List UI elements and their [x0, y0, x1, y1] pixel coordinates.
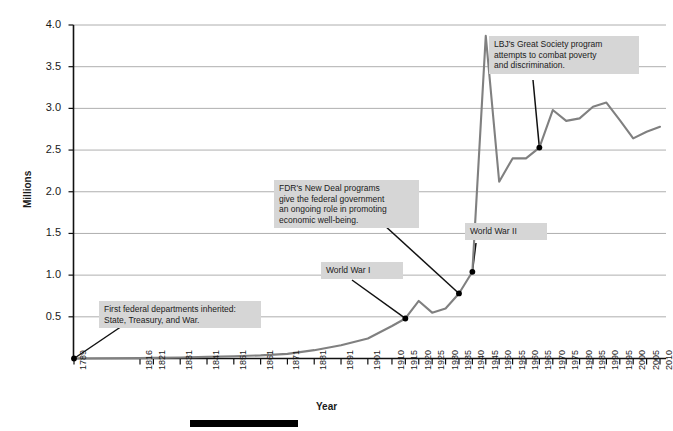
chart-container: Millions 0.51.01.52.02.53.03.54.0 178918… — [0, 0, 673, 431]
x-tick-label: 1910 — [396, 350, 406, 370]
x-tick-label: 1930 — [450, 350, 460, 370]
x-tick-label: 1841 — [211, 350, 221, 370]
x-tick-label: 1891 — [345, 350, 355, 370]
x-tick-label: 1970 — [557, 350, 567, 370]
y-tick-label: 3.5 — [27, 60, 61, 72]
footer-black-bar — [190, 420, 298, 427]
x-tick-label: 1965 — [543, 350, 553, 370]
x-tick-label: 1871 — [291, 350, 301, 370]
x-tick-label: 1831 — [184, 350, 194, 370]
annotation-lbj-great-society: LBJ's Great Society program attempts to … — [489, 36, 639, 74]
annotation-first-federal-departments: First federal departments inherited: Sta… — [99, 301, 261, 328]
x-tick-label: 1980 — [584, 350, 594, 370]
y-tick-label: 0.5 — [27, 310, 61, 322]
x-tick-label: 1935 — [463, 350, 473, 370]
x-tick-label: 2000 — [637, 350, 647, 370]
x-tick-label: 1816 — [144, 350, 154, 370]
x-tick-label: 1851 — [238, 350, 248, 370]
x-tick-label: 1920 — [423, 350, 433, 370]
x-axis-title: Year — [316, 401, 337, 412]
x-tick-label: 1821 — [157, 350, 167, 370]
x-tick-label: 1925 — [436, 350, 446, 370]
x-tick-label: 1960 — [530, 350, 540, 370]
x-tick-label: 1861 — [265, 350, 275, 370]
x-tick-label: 1990 — [610, 350, 620, 370]
x-tick-label: 1950 — [503, 350, 513, 370]
x-tick-label: 1955 — [517, 350, 527, 370]
x-tick-label: 1915 — [409, 350, 419, 370]
x-tick-label: 1975 — [570, 350, 580, 370]
x-tick-label: 2010 — [664, 350, 673, 370]
x-tick-label: 1940 — [476, 350, 486, 370]
annotation-world-war-ii: World War II — [465, 223, 547, 240]
x-tick-label: 2005 — [651, 350, 661, 370]
x-tick-label: 1881 — [318, 350, 328, 370]
y-tick-label: 2.5 — [27, 143, 61, 155]
x-tick-label: 1901 — [372, 350, 382, 370]
x-tick-label: 1945 — [490, 350, 500, 370]
x-tick-label: 1985 — [597, 350, 607, 370]
y-tick-label: 4.0 — [27, 18, 61, 30]
x-tick-label: 1789 — [78, 350, 88, 370]
annotation-fdr-new-deal: FDR's New Deal programs give the federal… — [274, 180, 419, 228]
x-tick-label: 1995 — [624, 350, 634, 370]
annotation-markers — [71, 145, 542, 362]
y-tick-label: 1.0 — [27, 268, 61, 280]
y-tick-label: 1.5 — [27, 226, 61, 238]
y-tick-label: 2.0 — [27, 185, 61, 197]
y-tick-label: 3.0 — [27, 101, 61, 113]
annotation-world-war-i: World War I — [321, 262, 403, 279]
